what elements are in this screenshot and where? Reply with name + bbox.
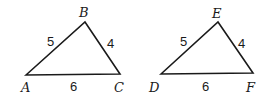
vertex-label-d: D [148,80,160,95]
congruent-triangles-diagram: A B C 5 4 6 D E F 5 4 6 [0,0,270,98]
side-label-ef: 4 [238,36,245,51]
side-label-ac: 6 [70,79,77,94]
side-label-bc: 4 [107,36,114,51]
vertex-label-c: C [114,80,124,95]
side-label-de: 5 [180,34,187,49]
vertex-label-f: F [245,80,256,95]
triangle-ABC: A B C 5 4 6 [20,5,124,95]
triangle-DEF: D E F 5 4 6 [148,6,256,95]
side-label-ab: 5 [47,34,54,49]
vertex-label-b: B [78,5,89,20]
vertex-label-e: E [211,6,222,21]
vertex-label-a: A [20,80,30,95]
side-label-df: 6 [202,79,209,94]
triangle-abc-outline [26,22,120,75]
